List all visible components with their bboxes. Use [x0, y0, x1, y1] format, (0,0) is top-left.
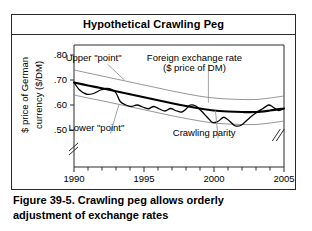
y-axis-title-line-1: $ price of German: [19, 57, 30, 133]
x-axis-break-icon: [272, 129, 284, 141]
x-tick-label: 1990: [63, 173, 84, 184]
panel-title: Hypothetical Crawling Peg: [12, 17, 295, 31]
caption-line-1: Figure 39-5. Crawling peg allows orderly: [13, 193, 303, 208]
annotation-label: ($ price of DM): [163, 62, 226, 73]
x-tick-label: 2005: [273, 173, 294, 184]
annotation-label: Upper "point": [66, 52, 122, 63]
chart-panel: Hypothetical Crawling Peg .50.60.70.8019…: [11, 14, 296, 190]
chart-plot-area: .50.60.70.801990199520002005Year$ price …: [12, 35, 297, 191]
x-axis-title: Year: [169, 188, 188, 191]
y-tick-label: .60: [54, 99, 67, 110]
caption-line-2: adjustment of exchange rates: [13, 208, 303, 223]
figure-root: Hypothetical Crawling Peg .50.60.70.8019…: [0, 0, 312, 231]
series-line-thick-black: [74, 83, 284, 113]
x-tick-label: 1995: [133, 173, 154, 184]
y-tick-label: .50: [54, 124, 67, 135]
x-tick-label: 2000: [203, 173, 224, 184]
crawling-peg-line-chart: .50.60.70.801990199520002005Year$ price …: [12, 35, 297, 191]
annotation-label: Crawling parity: [173, 127, 236, 138]
series-line-thin-gray: [74, 70, 284, 100]
y-axis-title-line-2: currency ($/DM): [33, 61, 44, 129]
annotation-label: Lower "point": [68, 122, 124, 133]
figure-caption: Figure 39-5. Crawling peg allows orderly…: [13, 193, 303, 223]
y-tick-label: .70: [54, 74, 67, 85]
